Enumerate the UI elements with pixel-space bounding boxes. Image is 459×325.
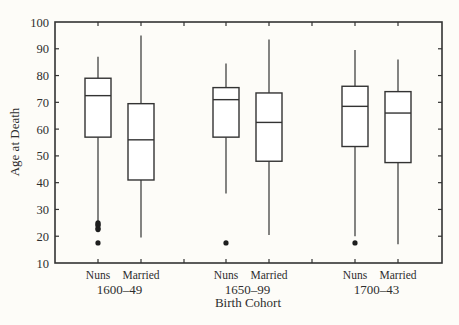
box-plot-chart: 102030405060708090100 NunsMarried1600–49… xyxy=(0,0,459,325)
plot-border xyxy=(55,22,442,263)
cohort-label: 1600–49 xyxy=(97,282,143,297)
y-axis-title: Age at Death xyxy=(7,107,22,176)
outlier-point xyxy=(352,240,357,245)
x-axis-labels: NunsMarried1600–49NunsMarried1650–99Nuns… xyxy=(86,269,417,297)
boxes xyxy=(85,35,411,245)
x-category-label: Nuns xyxy=(214,269,239,281)
outlier-point xyxy=(223,240,228,245)
box-nuns xyxy=(213,64,239,246)
x-category-label: Married xyxy=(379,269,416,281)
x-category-label: Married xyxy=(122,269,159,281)
iqr-box xyxy=(256,93,282,161)
x-category-label: Married xyxy=(250,269,287,281)
x-category-label: Nuns xyxy=(86,269,111,281)
plot-frame xyxy=(55,22,442,263)
cohort-group xyxy=(213,39,282,245)
y-tick-label: 40 xyxy=(37,176,50,190)
box-married xyxy=(128,35,154,237)
box-married xyxy=(385,59,411,244)
outlier-point xyxy=(95,240,100,245)
x-category-label: Nuns xyxy=(343,269,368,281)
iqr-box xyxy=(342,86,368,146)
y-tick-label: 10 xyxy=(37,257,50,271)
y-tick-label: 70 xyxy=(37,96,50,110)
cohort-group xyxy=(85,35,154,245)
iqr-box xyxy=(213,88,239,138)
iqr-box xyxy=(385,92,411,163)
y-tick-label: 80 xyxy=(37,69,50,83)
iqr-box xyxy=(85,78,111,137)
y-tick-label: 30 xyxy=(37,203,50,217)
y-tick-label: 100 xyxy=(30,16,49,30)
y-tick-label: 60 xyxy=(37,123,50,137)
cohort-group xyxy=(342,50,411,245)
cohort-label: 1700–43 xyxy=(354,282,400,297)
x-axis-title: Birth Cohort xyxy=(215,295,281,310)
box-married xyxy=(256,39,282,234)
box-nuns xyxy=(342,50,368,245)
y-tick-label: 20 xyxy=(37,230,50,244)
outlier-point xyxy=(95,227,100,232)
y-tick-label: 50 xyxy=(37,149,50,163)
y-tick-label: 90 xyxy=(37,42,50,56)
box-nuns xyxy=(85,57,111,246)
y-axis: 102030405060708090100 xyxy=(30,16,442,271)
iqr-box xyxy=(128,104,154,180)
